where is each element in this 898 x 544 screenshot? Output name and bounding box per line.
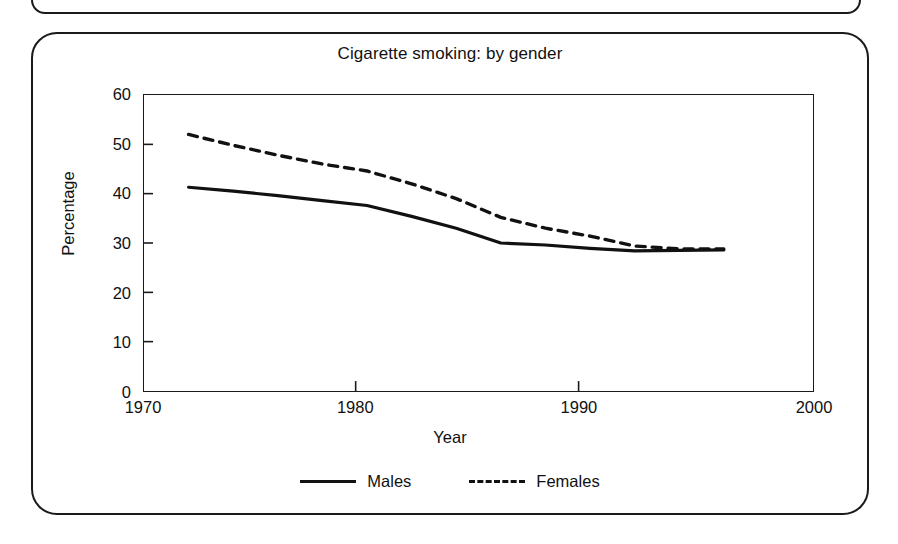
y-tick-marks xyxy=(144,144,153,341)
legend-line-solid-icon xyxy=(300,480,356,483)
y-tick-label-60: 60 xyxy=(91,86,131,102)
y-tick-label-30: 30 xyxy=(91,235,131,251)
chart-title: Cigarette smoking: by gender xyxy=(33,44,867,64)
y-tick-label-40: 40 xyxy=(91,185,131,201)
legend-line-dashed-icon xyxy=(469,480,525,483)
legend-item-females: Females xyxy=(469,472,599,491)
legend-label-males: Males xyxy=(367,472,411,491)
x-tick-label-2000: 2000 xyxy=(774,398,854,417)
x-tick-label-1990: 1990 xyxy=(539,398,619,417)
chart-legend: Males Females xyxy=(33,472,867,491)
x-tick-label-1970: 1970 xyxy=(103,398,183,417)
plot-area xyxy=(143,94,814,392)
legend-label-females: Females xyxy=(536,472,599,491)
y-tick-label-50: 50 xyxy=(91,136,131,152)
y-tick-label-10: 10 xyxy=(91,334,131,350)
y-tick-label-20: 20 xyxy=(91,285,131,301)
figure-card: Cigarette smoking: by gender Percentage … xyxy=(31,32,869,515)
x-axis-tick-labels: 1970 1980 1990 2000 xyxy=(143,398,814,422)
x-axis-title: Year xyxy=(33,428,867,447)
y-axis-title: Percentage xyxy=(59,139,78,289)
series-line-males xyxy=(189,187,724,251)
top-partial-box xyxy=(31,0,861,14)
x-tick-label-1980: 1980 xyxy=(315,398,395,417)
legend-item-males: Males xyxy=(300,472,411,491)
chart-plot-svg xyxy=(144,95,813,391)
y-axis-tick-labels: 60 50 40 30 20 10 0 xyxy=(85,94,131,392)
x-tick-marks xyxy=(356,381,579,391)
series-line-females xyxy=(189,134,724,248)
